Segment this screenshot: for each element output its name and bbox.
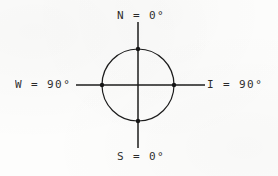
east-point-dot <box>172 83 176 87</box>
axes-group <box>76 22 205 148</box>
west-point-dot <box>100 83 104 87</box>
diagram-canvas: N = 0° S = 0° W = 90° I = 90° <box>0 0 278 176</box>
north-label: N = 0° <box>117 10 165 22</box>
south-point-dot <box>136 119 140 123</box>
east-label: I = 90° <box>207 79 263 91</box>
south-label: S = 0° <box>117 151 165 163</box>
north-point-dot <box>136 47 140 51</box>
west-label: W = 90° <box>15 79 71 91</box>
